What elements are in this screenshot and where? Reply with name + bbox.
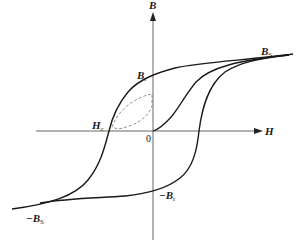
h-axis-label-text: H (265, 125, 274, 137)
minor-loop (112, 94, 152, 129)
origin-label: 0 (146, 134, 151, 144)
br-sub: r (144, 75, 146, 83)
h-axis-arrow-icon (254, 128, 263, 134)
neg-br-main: B (166, 189, 173, 201)
remanence-neg-label: −Br (159, 190, 175, 203)
remanence-pos-label: Br (137, 70, 147, 83)
b-axis-label-text: B (149, 0, 156, 11)
coercivity-label: Hc (92, 120, 104, 133)
descending-branch (12, 54, 293, 209)
h-axis-label: H (265, 126, 274, 137)
initial-magnetization-curve (153, 55, 289, 131)
b-axis-label: B (149, 0, 156, 11)
neg-bs-main: B (33, 212, 40, 224)
neg-br-sub: r (173, 195, 175, 203)
hysteresis-plot (0, 0, 306, 250)
saturation-neg-label: −BS (26, 213, 44, 226)
saturation-pos-label: BS (261, 46, 272, 59)
hc-main: H (92, 119, 101, 131)
bs-sub: S (268, 51, 272, 59)
ascending-branch (40, 55, 289, 203)
neg-bs-sub: S (40, 218, 44, 226)
origin-label-text: 0 (146, 133, 151, 144)
b-axis-arrow-icon (150, 12, 156, 21)
neg-br-prefix: − (159, 189, 166, 201)
hc-sub: c (101, 125, 104, 133)
neg-bs-prefix: − (26, 212, 33, 224)
hysteresis-diagram: B H 0 BS Br Hc −Br −BS (0, 0, 306, 250)
